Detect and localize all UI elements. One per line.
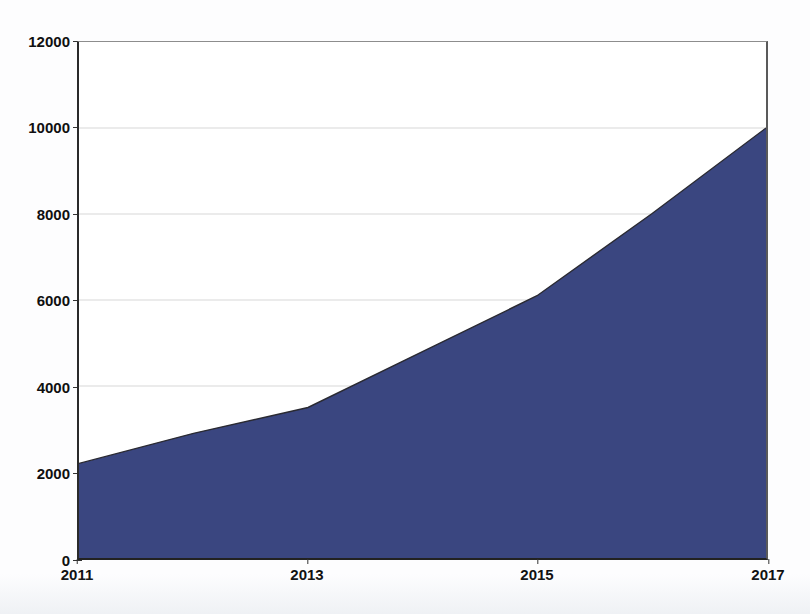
x-tick-label: 2015	[520, 566, 553, 583]
x-tick-label: 2017	[751, 566, 784, 583]
plot-area	[77, 41, 768, 560]
chart-canvas	[79, 42, 766, 558]
area-chart-figure: 12000 10000 8000 6000 4000 2000 0 2011 2…	[0, 0, 810, 614]
y-tick-label: 4000	[0, 379, 70, 396]
x-tick-label: 2013	[290, 566, 323, 583]
scanned-chart-page: 12000 10000 8000 6000 4000 2000 0 2011 2…	[0, 0, 810, 614]
y-tick-label: 12000	[0, 33, 70, 50]
y-axis-tick-labels: 12000 10000 8000 6000 4000 2000 0	[0, 0, 70, 614]
y-tick-label: 8000	[0, 206, 70, 223]
series-area	[79, 128, 766, 558]
y-tick-label: 10000	[0, 119, 70, 136]
x-axis-tick-labels: 2011 2013 2015 2017	[0, 566, 810, 588]
y-tick-label: 6000	[0, 292, 70, 309]
x-tick-label: 2011	[61, 566, 94, 583]
y-tick-label: 2000	[0, 465, 70, 482]
